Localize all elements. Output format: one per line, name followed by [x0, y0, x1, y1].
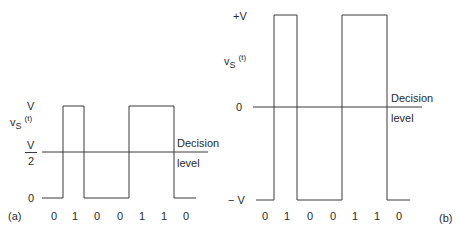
panel-a-decision-label-1: Decision — [177, 138, 219, 149]
bit: 1 — [70, 211, 80, 222]
panel-a-waveform — [42, 106, 208, 198]
bit: 0 — [115, 211, 125, 222]
bit: 0 — [394, 211, 404, 222]
signal-arg: (t) — [25, 114, 33, 123]
bit: 0 — [92, 211, 102, 222]
bit: 1 — [372, 211, 382, 222]
panel-b-y-middle-label: 0 — [236, 102, 242, 113]
fraction-bar — [25, 152, 37, 153]
bit: 1 — [159, 211, 169, 222]
bit: 0 — [49, 211, 59, 222]
bit: 0 — [328, 211, 338, 222]
panel-b-signal-label: vS (t) — [224, 56, 246, 67]
panel-b-waveform — [253, 15, 422, 200]
panel-a-y-half-num: V — [27, 140, 34, 151]
panel-b-decision-label-2: level — [391, 113, 414, 124]
panel-b-label: (b) — [439, 213, 452, 224]
panel-a-y-bottom-label: 0 — [28, 193, 34, 204]
panel-b-y-bottom-label: − V — [228, 195, 245, 206]
bit: 1 — [350, 211, 360, 222]
bit: 1 — [282, 211, 292, 222]
signal-sub: S — [230, 60, 236, 70]
bit: 0 — [181, 211, 191, 222]
panel-a-y-half-den: 2 — [28, 156, 34, 167]
panel-a-label: (a) — [8, 211, 21, 222]
panel-b-y-top-label: +V — [233, 11, 247, 22]
panel-a-y-top-label: V — [27, 101, 34, 112]
signal-v: v — [224, 55, 230, 67]
signal-arg: (t) — [239, 53, 247, 62]
panel-b-decision-label-1: Decision — [391, 93, 433, 104]
bit: 1 — [137, 211, 147, 222]
panel-a-signal-label: vS (t) — [10, 117, 32, 128]
panel-a-decision-label-2: level — [177, 158, 200, 169]
bit: 0 — [305, 211, 315, 222]
signal-v: v — [10, 116, 16, 128]
bit: 0 — [260, 211, 270, 222]
signal-sub: S — [16, 121, 22, 131]
